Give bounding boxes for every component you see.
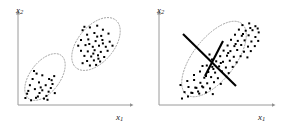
x-axis-label-right: x1	[258, 113, 265, 123]
scatter-points-class-1	[24, 70, 55, 101]
scatter-points-class-2	[77, 25, 113, 67]
figure-container: x2 x1	[0, 0, 285, 132]
ellipses-left	[17, 9, 130, 108]
decision-boundary-line	[183, 34, 236, 86]
y-axis-label-left: x2	[16, 6, 23, 16]
panel-left: x2 x1	[0, 0, 142, 132]
axes-left	[18, 13, 131, 105]
y-axis-label-right: x2	[157, 6, 164, 16]
boundary-lines-right	[183, 34, 236, 86]
cluster-ellipse-upper-right	[62, 9, 129, 80]
x-axis-label-left: x1	[116, 113, 123, 123]
panel-right: x2 x1	[143, 0, 285, 132]
scatter-points-combined	[180, 22, 260, 99]
